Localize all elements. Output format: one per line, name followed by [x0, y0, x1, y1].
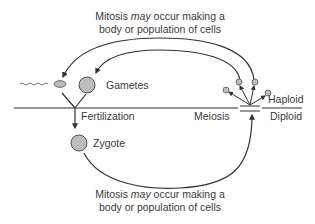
top-caption-line1: Mitosis may occur making a [95, 10, 225, 22]
top-caption-line2: body or population of cells [99, 23, 221, 35]
fertilization-branch-egg [75, 94, 86, 108]
diploid-label: Diploid [270, 110, 302, 122]
mitosis-arc-to-egg [96, 50, 240, 80]
haploid-label: Haploid [268, 93, 304, 105]
gametes-label: Gametes [106, 79, 149, 91]
sperm-icon [20, 81, 66, 88]
life-cycle-diagram: Mitosis may occur making a body or popul… [0, 0, 315, 224]
zygote-icon [71, 135, 87, 151]
fertilization-branch-sperm [62, 93, 75, 108]
meiosis-label: Meiosis [194, 110, 230, 122]
zygote-label: Zygote [93, 137, 125, 149]
mitosis-arc-to-meiosis [84, 115, 252, 188]
meiosis-products-icon [223, 79, 271, 105]
fertilization-label: Fertilization [81, 110, 135, 122]
mitosis-arc-to-sperm [63, 38, 254, 80]
gamete-egg-icon [79, 77, 95, 93]
bottom-caption-line2: body or population of cells [99, 201, 221, 213]
bottom-caption-line1: Mitosis may occur making a [95, 188, 225, 200]
